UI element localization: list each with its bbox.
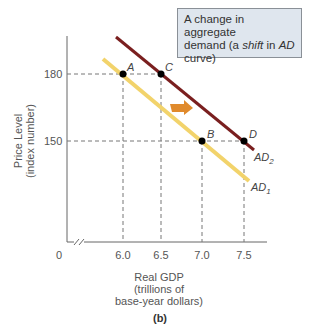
x-axis-label-3: base-year dollars)	[115, 295, 203, 307]
label-ad1: AD1	[250, 181, 271, 196]
x-tick-0: 0	[56, 249, 62, 261]
ad-shift-chart: A C B D AD2 AD1 180 150 0 6.0 6.5 7.0 7.…	[0, 0, 311, 324]
y-axis-label-2: (index number)	[24, 104, 36, 178]
point-d	[241, 138, 248, 145]
figure-caption: (b)	[153, 312, 167, 324]
guide-lines	[67, 74, 244, 242]
label-a: A	[126, 61, 134, 73]
ad2-curve	[116, 37, 254, 150]
y-tick-180: 180	[44, 68, 62, 80]
point-c	[158, 71, 165, 78]
x-tick-7-0: 7.0	[194, 249, 209, 261]
y-axis-label-1: Price Level	[12, 114, 24, 168]
label-c: C	[165, 61, 173, 73]
point-a	[120, 71, 127, 78]
x-tick-7-5: 7.5	[236, 249, 251, 261]
label-ad2: AD2	[253, 151, 274, 166]
x-tick-6-5: 6.5	[153, 249, 168, 261]
ad1-curve	[103, 59, 249, 181]
label-b: B	[207, 128, 214, 140]
label-d: D	[249, 128, 257, 140]
x-tick-6-0: 6.0	[115, 249, 130, 261]
y-tick-150: 150	[44, 135, 62, 147]
point-b	[199, 138, 206, 145]
x-axis-label-1: Real GDP	[134, 271, 184, 283]
shift-arrow-icon	[170, 100, 193, 115]
x-axis-label-2: (trillions of	[134, 283, 185, 295]
